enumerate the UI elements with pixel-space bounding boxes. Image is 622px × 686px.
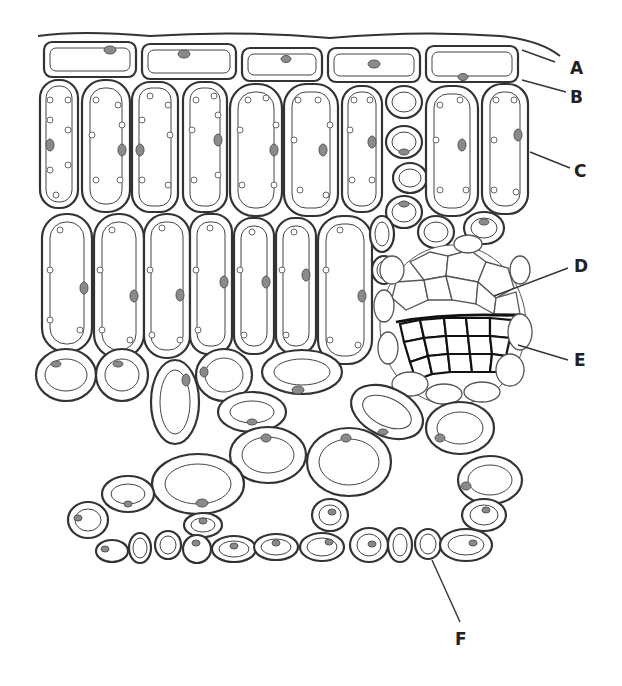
label-B: B bbox=[522, 80, 583, 107]
vascular-bundle bbox=[374, 235, 532, 405]
palisade-mesophyll-row-1 bbox=[40, 80, 528, 228]
svg-text:E: E bbox=[574, 350, 586, 370]
label-F: F bbox=[432, 560, 467, 649]
lower-epidermis bbox=[96, 528, 492, 563]
phloem bbox=[400, 318, 512, 380]
leaf-cross-section-diagram: A B C D E F bbox=[0, 0, 622, 686]
label-C: C bbox=[530, 152, 586, 181]
guard-cell bbox=[415, 529, 441, 559]
svg-text:B: B bbox=[570, 87, 583, 107]
label-E: E bbox=[518, 345, 586, 370]
label-A: A bbox=[522, 50, 584, 78]
upper-epidermis bbox=[44, 42, 518, 82]
svg-text:A: A bbox=[570, 58, 584, 78]
svg-text:F: F bbox=[455, 629, 467, 649]
svg-text:C: C bbox=[574, 161, 586, 181]
svg-text:D: D bbox=[574, 256, 588, 276]
